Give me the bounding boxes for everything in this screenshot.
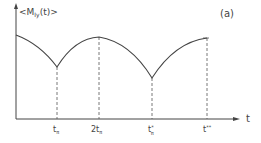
x-tick-label: t** (203, 124, 212, 134)
x-tick-label: t*π (148, 124, 154, 136)
x-tick-label: tπ (53, 125, 59, 135)
y-axis-label: <MIy(t)> (19, 7, 58, 19)
y-axis-arrow-icon (14, 3, 18, 9)
x-axis-arrow-icon (233, 117, 240, 121)
x-tick-label: 2tπ (91, 125, 102, 135)
panel-label: (a) (220, 8, 234, 19)
chart: <MIy(t)> (a) t tπ 2tπ t*π t** (0, 0, 261, 143)
data-curve (16, 35, 207, 78)
dashed-guides (57, 37, 207, 119)
x-axis-label: t (246, 113, 250, 124)
